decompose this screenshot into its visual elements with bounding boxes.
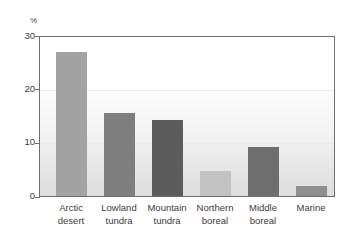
- bar-lowland-tundra: [104, 113, 135, 196]
- x-axis-labels: Arctic desert Lowland tundra Mountain tu…: [39, 202, 335, 242]
- y-tick-label-0: 0: [9, 191, 35, 201]
- x-label-line1: Arctic: [59, 202, 83, 213]
- bar-arctic-desert: [56, 52, 87, 196]
- bar-chart-figure: % 30 20 10 0 Arctic desert Lowland tundr…: [0, 0, 347, 244]
- x-label-line2: boreal: [233, 215, 293, 228]
- y-tick-label-20: 20: [9, 84, 35, 94]
- bar-northern-boreal: [200, 171, 231, 196]
- x-label-line1: Middle: [249, 202, 277, 213]
- bars-layer: [40, 37, 334, 196]
- plot-area: [39, 36, 335, 197]
- y-tick-mark-0: [35, 197, 40, 198]
- x-label-line1: Mountain: [147, 202, 186, 213]
- y-tick-label-30: 30: [9, 31, 35, 41]
- x-label-line1: Northern: [197, 202, 234, 213]
- bar-marine: [296, 186, 327, 196]
- x-label-marine: Marine: [281, 202, 341, 215]
- y-tick-label-10: 10: [9, 137, 35, 147]
- x-label-line1: Lowland: [101, 202, 136, 213]
- bar-middle-boreal: [248, 147, 279, 196]
- bar-mountain-tundra: [152, 120, 183, 196]
- x-label-line1: Marine: [296, 202, 325, 213]
- y-axis-unit-label: %: [30, 16, 37, 25]
